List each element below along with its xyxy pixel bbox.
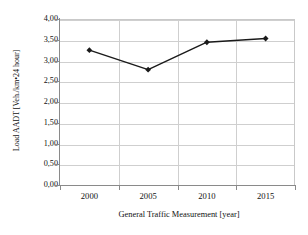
y-axis-tick-label: 0,50 xyxy=(26,160,58,168)
x-axis-tick-label: 2010 xyxy=(183,192,231,201)
y-axis-tick-label: 1,50 xyxy=(26,119,58,127)
y-axis-tick-mark xyxy=(55,102,60,103)
gridline-vertical xyxy=(236,20,237,185)
y-axis-tick-mark xyxy=(55,40,60,41)
y-axis-tick-mark xyxy=(55,81,60,82)
x-axis-tick-mark xyxy=(178,185,179,190)
x-axis-tick-label: 2000 xyxy=(65,192,113,201)
gridline-vertical xyxy=(178,20,179,185)
plot-area xyxy=(60,19,295,185)
x-axis-tick-mark xyxy=(119,185,120,190)
y-axis-tick-mark xyxy=(55,19,60,20)
x-axis-title: General Traffic Measurement [year] xyxy=(60,210,298,219)
y-axis-tick-label: 4,00 xyxy=(26,15,58,23)
y-axis-tick-label: 1,00 xyxy=(26,139,58,147)
y-axis-tick-label: 2,00 xyxy=(26,98,58,106)
x-axis-tick-label: 2005 xyxy=(124,192,172,201)
x-axis-tick-mark xyxy=(295,185,296,190)
y-axis-tick-label: 0,00 xyxy=(26,181,58,189)
y-axis-tick-mark xyxy=(55,123,60,124)
y-axis-tick-label: 3,50 xyxy=(26,36,58,44)
y-axis-tick-mark xyxy=(55,61,60,62)
y-axis-tick-label: 2,50 xyxy=(26,77,58,85)
x-axis-tick-mark xyxy=(236,185,237,190)
x-axis-tick-mark xyxy=(60,185,61,190)
chart-container: Load AADT [Veh./km•24 hour] 0,000,501,00… xyxy=(0,0,308,235)
x-axis-tick-label: 2015 xyxy=(242,192,290,201)
x-axis-tick-labels: 2000200520102015 xyxy=(0,192,308,206)
y-axis-tick-mark xyxy=(55,144,60,145)
y-axis-title: Load AADT [Veh./km•24 hour] xyxy=(10,14,24,186)
gridline-vertical xyxy=(119,20,120,185)
y-axis-tick-mark xyxy=(55,164,60,165)
y-axis-title-text: Load AADT [Veh./km•24 hour] xyxy=(13,49,22,150)
y-axis-tick-label: 3,00 xyxy=(26,56,58,64)
